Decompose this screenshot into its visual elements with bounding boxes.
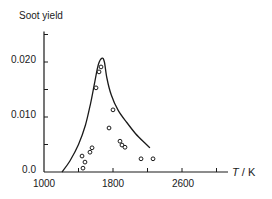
data-point	[111, 108, 115, 112]
x-tick-label-1000: 1000	[24, 178, 64, 189]
model-curve	[62, 58, 150, 172]
x-axis-unit: / K	[239, 166, 256, 178]
data-point	[83, 160, 87, 164]
data-point	[90, 146, 94, 150]
data-point	[80, 154, 84, 158]
data-point	[123, 145, 127, 149]
data-point	[139, 157, 143, 161]
data-point	[81, 166, 85, 170]
y-tick-label-0.020: 0.020	[0, 54, 36, 65]
data-point	[97, 70, 101, 74]
data-point	[107, 126, 111, 130]
y-tick-label-0.010: 0.010	[0, 109, 36, 120]
data-point	[88, 150, 92, 154]
y-tick-label-0.0: 0.0	[0, 164, 36, 175]
data-point	[99, 65, 103, 69]
x-tick-label-1800: 1800	[93, 178, 133, 189]
data-point	[151, 157, 155, 161]
data-point	[118, 139, 122, 143]
x-axis-title: T / K	[232, 166, 255, 178]
data-point	[94, 86, 98, 90]
x-tick-label-2600: 2600	[163, 178, 203, 189]
x-axis-variable: T	[232, 166, 239, 178]
y-axis-title: Soot yield	[19, 10, 63, 21]
soot-yield-chart: Soot yield 0.020 0.010 0.0 1000 1800 260…	[0, 0, 272, 199]
